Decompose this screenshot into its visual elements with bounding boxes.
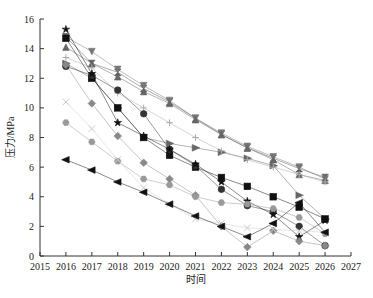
series-markers-bowtie	[63, 33, 329, 180]
y-tick-label: 6	[29, 162, 34, 173]
y-tick-label: 2	[29, 221, 34, 232]
x-tick-label: 2025	[289, 261, 309, 272]
triangle-left-marker	[113, 179, 121, 186]
star-marker	[114, 119, 122, 126]
y-tick-label: 16	[24, 14, 34, 25]
series-markers	[62, 25, 330, 251]
x-tick-label: 2021	[186, 261, 206, 272]
x-tick-label: 2023	[237, 261, 257, 272]
x-tick-label: 2015	[30, 261, 50, 272]
x-tick-label: 2016	[56, 261, 76, 272]
circle-marker	[114, 87, 121, 94]
cross-marker	[63, 99, 70, 106]
x-tick-label: 2027	[341, 261, 361, 272]
series-line-triangle-down	[66, 37, 325, 179]
hexagon-marker	[140, 176, 147, 182]
y-axis-title: 压力/MPa	[4, 116, 16, 158]
y-tick-label: 4	[29, 191, 34, 202]
hexagon-marker	[244, 201, 251, 207]
triangle-right-marker	[166, 140, 174, 147]
diamond-marker	[269, 227, 277, 235]
x-tick-label: 2026	[315, 261, 335, 272]
diamond-marker	[321, 242, 329, 250]
triangle-up-marker	[63, 44, 70, 51]
series-line-bowtie	[66, 37, 325, 178]
x-tick-label: 2017	[82, 261, 102, 272]
circle-marker	[140, 111, 147, 118]
diamond-marker	[166, 175, 174, 183]
star-marker	[62, 25, 70, 32]
triangle-left-marker	[243, 233, 251, 240]
square-marker	[63, 35, 70, 42]
cross-marker	[89, 125, 96, 132]
hexagon-marker	[192, 194, 199, 200]
plus-marker	[166, 119, 173, 126]
hexagon-marker	[270, 206, 277, 212]
line-chart: 2015201620172018201920202021202220232024…	[0, 0, 373, 298]
triangle-right-marker	[192, 145, 200, 152]
triangle-down-marker	[89, 48, 96, 55]
y-tick-label: 14	[24, 43, 34, 54]
plus-marker	[192, 134, 199, 141]
hexagon-marker	[63, 120, 70, 126]
x-tick-label: 2024	[263, 261, 283, 272]
triangle-left-marker	[139, 189, 147, 196]
hexagon-marker	[89, 139, 96, 145]
series-markers-star	[62, 25, 329, 240]
series-line-diamond	[66, 65, 325, 247]
plus-marker	[63, 54, 70, 61]
y-tick-label: 10	[24, 102, 34, 113]
x-axis-title: 时间	[186, 273, 206, 285]
diamond-marker	[295, 237, 303, 245]
x-tick-label: 2020	[160, 261, 180, 272]
x-tick-label: 2019	[134, 261, 154, 272]
axis-labels: 2015201620172018201920202021202220232024…	[4, 14, 361, 286]
y-tick-label: 8	[29, 132, 34, 143]
square-marker	[270, 193, 277, 200]
hexagon-marker	[296, 215, 303, 221]
triangle-left-marker	[88, 167, 96, 174]
square-marker	[244, 183, 251, 190]
circle-marker	[218, 186, 225, 193]
x-tick-label: 2018	[108, 261, 128, 272]
square-marker	[166, 152, 173, 159]
plus-marker	[140, 105, 147, 112]
y-tick-label: 12	[24, 73, 34, 84]
triangle-left-marker	[269, 220, 277, 227]
x-tick-label: 2022	[211, 261, 231, 272]
hexagon-marker	[218, 200, 225, 206]
hexagon-marker	[166, 182, 173, 188]
triangle-left-marker	[62, 156, 70, 163]
y-tick-label: 0	[29, 251, 34, 262]
square-marker	[114, 105, 121, 112]
